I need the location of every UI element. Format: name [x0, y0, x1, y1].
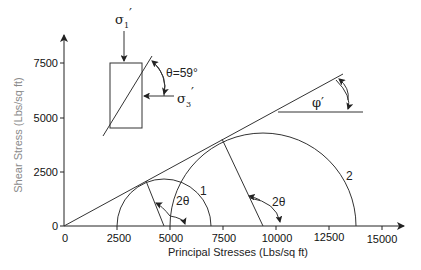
x-ticks [117, 226, 382, 230]
y-axis-title: Shear Stress (Lbs/sq ft) [12, 77, 24, 193]
sigma1-label: σ1′ [115, 6, 132, 30]
mohr-circle-1 [117, 179, 211, 226]
x-tick-label: 2500 [107, 232, 131, 244]
y-tick-label: 7500 [34, 57, 58, 69]
theta-label: θ=59° [166, 66, 198, 80]
y-tick-label: 5000 [34, 112, 58, 124]
x-tick-label: 0 [62, 232, 68, 244]
two-theta-arrow-1 [170, 216, 185, 224]
x-tick-label: 15000 [367, 233, 398, 245]
soil-element: σ1′ σ3′ θ=59° [103, 6, 198, 136]
element-rectangle [110, 63, 142, 128]
theta-arrow-back [155, 64, 165, 94]
two-theta-arrow-1b [156, 203, 170, 216]
radius-line-2 [222, 139, 263, 226]
radius-line-1 [146, 181, 164, 226]
mohr-circle-2 [170, 133, 356, 226]
y-ticks [60, 63, 64, 226]
y-tick-labels: 0 2500 5000 7500 [34, 57, 58, 232]
two-theta-label-2: 2θ [272, 195, 286, 209]
x-tick-label: 10000 [262, 232, 293, 244]
phi-label: φ′ [312, 95, 324, 110]
circle-2-label: 2 [346, 169, 353, 183]
x-tick-label: 7500 [212, 232, 236, 244]
x-axis-title: Principal Stresses (Lbs/sq ft) [168, 246, 308, 258]
failure-envelope-line [64, 74, 343, 226]
x-tick-label: 12500 [314, 231, 345, 243]
two-theta-label-1: 2θ [176, 194, 190, 208]
sigma3-label: σ3′ [177, 85, 194, 109]
x-tick-label: 5000 [159, 232, 183, 244]
y-tick-label: 0 [52, 220, 58, 232]
x-tick-labels: 0 2500 5000 7500 10000 12500 15000 [62, 231, 397, 245]
y-tick-label: 2500 [34, 166, 58, 178]
phi-angle-arrow [336, 80, 349, 109]
circle-1-label: 1 [200, 184, 207, 198]
mohr-circle-diagram: 0 2500 5000 7500 10000 12500 15000 Princ… [0, 0, 421, 270]
theta-arrow [152, 61, 165, 96]
